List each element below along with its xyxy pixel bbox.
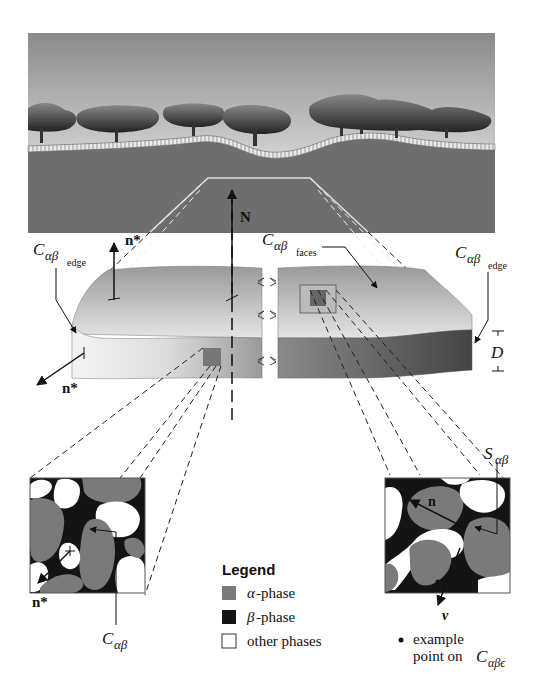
svg-text:-phase: -phase xyxy=(256,609,295,625)
slab-left-top xyxy=(72,266,262,338)
svg-text:edge: edge xyxy=(67,257,86,268)
c-edge-left-label: C αβ edge xyxy=(33,240,86,268)
c-faces-label: C αβ faces xyxy=(262,230,317,258)
landscape-panel xyxy=(28,33,495,233)
legend: Legend α -phase β -phase other phases xyxy=(222,561,322,649)
svg-text:edge: edge xyxy=(488,260,507,271)
c-ab-label: C αβ xyxy=(102,629,128,652)
n-star-left-label: n* xyxy=(62,380,78,396)
svg-text:-phase: -phase xyxy=(256,585,295,601)
svg-text:C: C xyxy=(262,230,274,249)
svg-text:αβ: αβ xyxy=(495,452,509,467)
n-star-inset-label: n* xyxy=(32,594,48,610)
svg-text:S: S xyxy=(484,444,493,463)
svg-text:αβ: αβ xyxy=(274,238,288,253)
slab-left xyxy=(72,266,262,378)
nu-label: ν xyxy=(442,608,449,623)
legend-item-other: other phases xyxy=(222,633,322,649)
D-label: D xyxy=(490,343,504,362)
svg-text:α: α xyxy=(247,585,256,601)
s-ab-label: S αβ xyxy=(484,444,509,467)
svg-text:αβ: αβ xyxy=(467,251,481,266)
alpha-swatch xyxy=(222,586,236,600)
bullet-icon xyxy=(399,638,404,643)
svg-text:C: C xyxy=(102,629,114,648)
example-line2: point on xyxy=(413,648,463,664)
legend-item-beta: β -phase xyxy=(222,609,295,625)
sample-region-face-inner xyxy=(310,290,326,306)
sample-region-left xyxy=(203,348,221,366)
N-label: N xyxy=(240,209,251,225)
svg-text:αβ: αβ xyxy=(45,248,59,263)
legend-title: Legend xyxy=(222,561,275,578)
slab-right xyxy=(278,266,472,378)
svg-text:other phases: other phases xyxy=(247,633,322,649)
svg-text:C: C xyxy=(455,243,467,262)
inset-left xyxy=(30,478,145,593)
beta-swatch xyxy=(222,610,236,624)
c-abe-label: C αβϵ xyxy=(476,647,506,670)
n-inset-label: n xyxy=(428,494,436,509)
other-swatch xyxy=(222,634,236,648)
svg-text:αβϵ: αβϵ xyxy=(488,656,506,670)
svg-text:C: C xyxy=(33,240,45,259)
c-edge-right-label: C αβ edge xyxy=(455,243,507,271)
c-edge-right-pointer xyxy=(475,272,488,343)
example-line1: example xyxy=(413,631,464,647)
svg-text:faces: faces xyxy=(296,247,317,258)
legend-item-alpha: α -phase xyxy=(222,585,295,601)
n-star-top-label: n* xyxy=(125,232,141,248)
svg-text:αβ: αβ xyxy=(114,637,128,652)
inset-right xyxy=(385,478,510,593)
diagram-canvas: N n* n* C αβ edge C αβ faces C αβ edge D xyxy=(0,0,539,699)
svg-text:β: β xyxy=(246,609,255,625)
svg-text:C: C xyxy=(476,647,488,666)
example-point-marker xyxy=(436,580,441,585)
